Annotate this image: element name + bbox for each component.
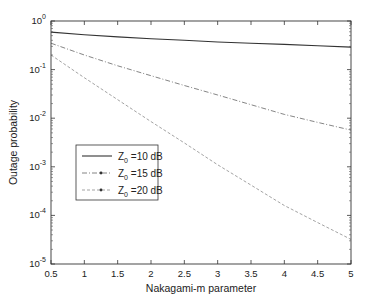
x-tick-label: 5 <box>348 268 353 279</box>
y-tick-exponent: -3 <box>40 159 46 166</box>
y-tick-base: 10 <box>29 161 40 172</box>
ticks-layer <box>51 21 351 264</box>
x-tick-label: 4.5 <box>311 268 324 279</box>
y-tick-label: 10-2 <box>29 110 46 123</box>
legend-label-rest: =15 dB <box>128 168 163 179</box>
x-tick-label: 2.5 <box>178 268 191 279</box>
series-layer <box>51 32 351 239</box>
y-tick-label: 10-3 <box>29 159 46 172</box>
y-tick-base: 10 <box>29 112 40 123</box>
y-tick-exponent: 0 <box>42 13 46 20</box>
y-tick-exponent: -5 <box>40 256 46 263</box>
plot-frame <box>51 21 351 264</box>
x-tick-label: 1.5 <box>111 268 124 279</box>
outage-probability-chart: 0.511.522.533.544.5510010-110-210-310-41… <box>0 0 368 307</box>
legend-marker-3 <box>100 189 103 192</box>
y-tick-base: 10 <box>29 209 40 220</box>
y-tick-base: 10 <box>32 15 43 26</box>
series-line-1 <box>51 32 351 47</box>
y-tick-exponent: -4 <box>40 207 46 214</box>
x-tick-label: 1 <box>82 268 87 279</box>
y-tick-label: 10-1 <box>29 62 46 75</box>
y-tick-base: 10 <box>29 258 40 269</box>
y-tick-label: 100 <box>32 13 47 26</box>
legend-label-rest: =10 dB <box>128 151 163 162</box>
x-tick-label: 3.5 <box>244 268 257 279</box>
x-tick-label: 4 <box>282 268 287 279</box>
legend: Z0 =10 dBZ0 =15 dBZ0 =20 dB <box>76 145 163 200</box>
x-axis-label: Nakagami-m parameter <box>146 282 257 294</box>
legend-marker-2 <box>100 172 103 175</box>
series-line-2 <box>51 43 351 130</box>
legend-label-rest: =20 dB <box>128 185 163 196</box>
y-tick-exponent: -2 <box>40 110 46 117</box>
y-tick-exponent: -1 <box>40 62 46 69</box>
x-tick-label: 0.5 <box>44 268 57 279</box>
y-axis-label: Outage probability <box>7 99 19 185</box>
x-tick-label: 3 <box>215 268 220 279</box>
y-tick-base: 10 <box>29 64 40 75</box>
y-tick-label: 10-4 <box>29 207 46 220</box>
x-tick-label: 2 <box>148 268 153 279</box>
